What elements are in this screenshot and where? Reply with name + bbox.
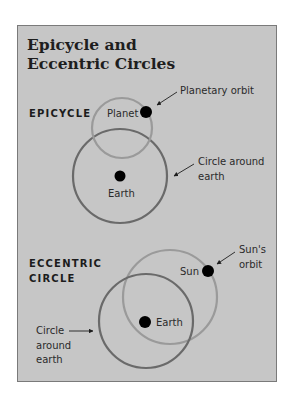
eccentric-earth-label: Earth: [156, 317, 183, 328]
epicycle-heading: EPICYCLE: [29, 108, 91, 119]
eccentric-earth-dot: [139, 316, 151, 328]
sun-label: Sun: [180, 266, 199, 277]
eccentric-heading-line-1: ECCENTRIC: [29, 258, 102, 269]
eccentric-circle-label-3: earth: [36, 354, 63, 365]
eccentric-circle-label-2: around: [36, 340, 71, 351]
suns-orbit-label-2: orbit: [239, 259, 262, 270]
planet-dot: [140, 106, 152, 118]
eccentric-circle-label-1: Circle: [36, 325, 64, 336]
title-line-2: Eccentric Circles: [27, 54, 175, 73]
sun-dot: [202, 265, 214, 277]
earth-dot: [115, 171, 126, 182]
suns-orbit-label-1: Sun's: [239, 244, 266, 255]
earth-label: Earth: [108, 188, 135, 199]
circle-around-earth-label-1: Circle around: [198, 156, 264, 167]
epicycle-eccentric-diagram: Epicycle and Eccentric Circles EPICYCLE …: [0, 0, 291, 400]
title-line-1: Epicycle and: [27, 35, 137, 54]
planet-label: Planet: [107, 108, 138, 119]
eccentric-heading-line-2: CIRCLE: [29, 273, 76, 284]
planetary-orbit-label: Planetary orbit: [180, 85, 254, 96]
circle-around-earth-label-2: earth: [198, 171, 225, 182]
